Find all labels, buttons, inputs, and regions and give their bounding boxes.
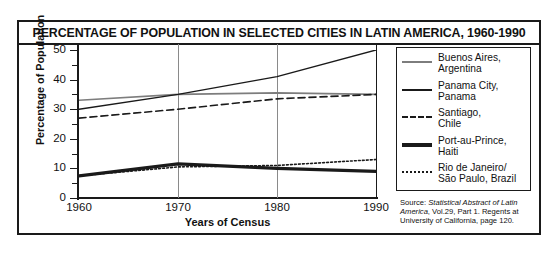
plot-area (79, 50, 376, 198)
x-tick-label: 1970 (155, 201, 201, 213)
legend-swatch (402, 143, 432, 147)
y-tick-major (70, 50, 77, 51)
x-tick-label: 1990 (353, 201, 399, 213)
x-axis-title: Years of Census (79, 216, 376, 228)
legend-swatch (402, 116, 432, 118)
chart-figure: PERCENTAGE OF POPULATION IN SELECTED CIT… (0, 0, 556, 253)
y-tick-minor (72, 94, 77, 95)
y-tick-major (70, 80, 77, 81)
y-tick-major (70, 139, 77, 140)
legend-swatch (402, 61, 432, 63)
y-tick-major (70, 168, 77, 169)
plot-right-border (376, 44, 377, 198)
legend-label: Buenos Aires,Argentina (438, 52, 530, 75)
series-line (79, 50, 376, 109)
legend-swatch (402, 171, 432, 173)
legend-label-line2: Panama (438, 91, 530, 102)
source-prefix: Source: (400, 198, 428, 207)
y-tick-minor (72, 65, 77, 66)
title-divider (19, 43, 539, 45)
x-tick-label: 1980 (254, 201, 300, 213)
legend-label-line2: Haiti (438, 146, 530, 157)
legend-label-line1: Santiago, (438, 107, 530, 118)
y-tick-minor (72, 154, 77, 155)
source-note: Source: Statistical Abstract of Latin Am… (400, 198, 534, 226)
legend-label: Rio de Janeiro/São Paulo, Brazil (438, 162, 530, 185)
legend-label-line1: Port-au-Prince, (438, 135, 530, 146)
y-tick-label-wrap: 10 (38, 161, 66, 175)
legend-swatch (402, 89, 432, 91)
chart-title: PERCENTAGE OF POPULATION IN SELECTED CIT… (19, 23, 539, 43)
legend-item[interactable]: Buenos Aires,Argentina (402, 54, 528, 82)
legend-label: Santiago,Chile (438, 107, 530, 130)
legend-label-line1: Rio de Janeiro/ (438, 162, 530, 173)
legend-label-line1: Buenos Aires, (438, 52, 530, 63)
legend-label-line2: São Paulo, Brazil (438, 173, 530, 184)
y-axis-title: Percentage of Population (34, 0, 46, 160)
legend-item[interactable]: Panama City,Panama (402, 82, 528, 110)
legend-label: Port-au-Prince,Haiti (438, 135, 530, 158)
legend-label: Panama City,Panama (438, 80, 530, 103)
y-tick-minor (72, 124, 77, 125)
legend-item[interactable]: Santiago,Chile (402, 109, 528, 137)
x-tick-label: 1960 (56, 201, 102, 213)
legend-item[interactable]: Rio de Janeiro/São Paulo, Brazil (402, 164, 528, 192)
y-tick-minor (72, 183, 77, 184)
legend-label-line2: Argentina (438, 63, 530, 74)
y-tick-major (70, 198, 77, 199)
legend-label-line1: Panama City, (438, 80, 530, 91)
legend-label-line2: Chile (438, 118, 530, 129)
chart-legend: Buenos Aires,ArgentinaPanama City,Panama… (396, 47, 531, 191)
y-tick-label: 10 (38, 161, 66, 173)
y-tick-major (70, 109, 77, 110)
legend-item[interactable]: Port-au-Prince,Haiti (402, 137, 528, 165)
